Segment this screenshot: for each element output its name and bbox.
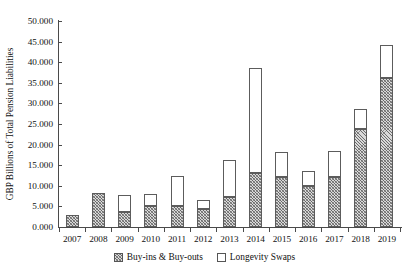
- x-axis-tick-mark: [374, 228, 375, 232]
- bar-segment-buy-ins[interactable]: [118, 212, 131, 227]
- x-axis-tick-mark: [85, 228, 86, 232]
- bar-group[interactable]: [380, 21, 393, 227]
- x-axis-tick-mark: [138, 228, 139, 232]
- bar-group[interactable]: [171, 21, 184, 227]
- legend-item-label: Buy-ins & Buy-outs: [127, 252, 203, 263]
- bar-segment-buy-ins[interactable]: [380, 78, 393, 227]
- x-axis-tick-mark: [243, 228, 244, 232]
- bar-group[interactable]: [144, 21, 157, 227]
- bar-group[interactable]: [197, 21, 210, 227]
- x-axis-tick-label: 2019: [367, 233, 407, 245]
- y-axis-tick-label: 0.000: [0, 221, 59, 233]
- bar-segment-buy-ins[interactable]: [92, 193, 105, 227]
- bar-group[interactable]: [66, 21, 79, 227]
- x-axis-tick-mark: [295, 228, 296, 232]
- bar-segment-buy-ins[interactable]: [66, 215, 79, 227]
- empty-square-icon: [217, 253, 226, 262]
- bar-segment-buy-ins[interactable]: [144, 206, 157, 227]
- chart-legend: Buy-ins & Buy-outsLongevity Swaps: [0, 252, 409, 263]
- bar-group[interactable]: [354, 21, 367, 227]
- bar-segment-buy-ins[interactable]: [171, 206, 184, 227]
- bar-segment-buy-ins[interactable]: [354, 129, 367, 227]
- bar-segment-longevity-swaps[interactable]: [354, 109, 367, 129]
- x-axis-tick-mark: [164, 228, 165, 232]
- y-axis-tick-label: 50.000: [0, 15, 59, 27]
- bar-segment-longevity-swaps[interactable]: [144, 194, 157, 206]
- x-axis-tick-mark: [190, 228, 191, 232]
- bar-group[interactable]: [302, 21, 315, 227]
- bar-group[interactable]: [275, 21, 288, 227]
- x-axis-tick-mark: [400, 228, 401, 232]
- plot-area: [59, 21, 400, 227]
- bar-segment-longevity-swaps[interactable]: [223, 160, 236, 197]
- bar-group[interactable]: [223, 21, 236, 227]
- y-axis-tick-label: 45.000: [0, 36, 59, 48]
- bar-segment-longevity-swaps[interactable]: [380, 45, 393, 78]
- bar-group[interactable]: [92, 21, 105, 227]
- bar-segment-buy-ins[interactable]: [302, 186, 315, 227]
- y-axis-tick-label: 40.000: [0, 56, 59, 68]
- x-axis-line: [58, 227, 402, 228]
- bar-segment-buy-ins[interactable]: [197, 209, 210, 227]
- y-axis-tick-label: 15.000: [0, 159, 59, 171]
- bar-group[interactable]: [249, 21, 262, 227]
- hatched-square-icon: [114, 253, 123, 262]
- y-axis-tick-label: 20.000: [0, 139, 59, 151]
- bar-segment-longevity-swaps[interactable]: [118, 195, 131, 212]
- x-axis-tick-mark: [111, 228, 112, 232]
- bar-segment-longevity-swaps[interactable]: [197, 200, 210, 209]
- x-axis-tick-mark: [216, 228, 217, 232]
- x-axis-tick-mark: [348, 228, 349, 232]
- bar-segment-longevity-swaps[interactable]: [328, 151, 341, 177]
- bar-segment-buy-ins[interactable]: [328, 177, 341, 227]
- y-axis-tick-label: 30.000: [0, 97, 59, 109]
- bar-segment-longevity-swaps[interactable]: [275, 152, 288, 177]
- bar-group[interactable]: [118, 21, 131, 227]
- x-axis-tick-mark: [59, 228, 60, 232]
- bar-segment-longevity-swaps[interactable]: [171, 176, 184, 205]
- bar-segment-buy-ins[interactable]: [249, 173, 262, 227]
- bar-segment-buy-ins[interactable]: [275, 177, 288, 227]
- bar-group[interactable]: [328, 21, 341, 227]
- bar-segment-buy-ins[interactable]: [223, 197, 236, 227]
- bar-chart: GBP Billions of Total Pension Liabilitie…: [0, 0, 409, 279]
- y-axis-tick-label: 5.000: [0, 200, 59, 212]
- x-axis-tick-mark: [269, 228, 270, 232]
- y-axis-tick-label: 10.000: [0, 180, 59, 192]
- y-axis-tick-label: 35.000: [0, 77, 59, 89]
- legend-item-label: Longevity Swaps: [230, 252, 295, 263]
- bar-segment-longevity-swaps[interactable]: [249, 68, 262, 173]
- bar-segment-longevity-swaps[interactable]: [302, 171, 315, 186]
- legend-item[interactable]: Buy-ins & Buy-outs: [114, 252, 203, 263]
- y-axis-tick-label: 25.000: [0, 118, 59, 130]
- legend-item[interactable]: Longevity Swaps: [217, 252, 295, 263]
- x-axis-tick-mark: [321, 228, 322, 232]
